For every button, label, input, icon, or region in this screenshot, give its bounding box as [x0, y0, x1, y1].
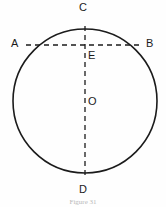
figure-container: C A B E O D Figure 31 [0, 0, 166, 207]
label-point-a: A [11, 38, 18, 49]
label-point-b: B [146, 38, 153, 49]
geometry-diagram [0, 0, 166, 207]
figure-caption: Figure 31 [0, 198, 166, 206]
label-point-o: O [88, 96, 97, 107]
label-point-d: D [79, 184, 87, 195]
label-point-e: E [88, 50, 95, 61]
label-point-c: C [79, 2, 87, 13]
